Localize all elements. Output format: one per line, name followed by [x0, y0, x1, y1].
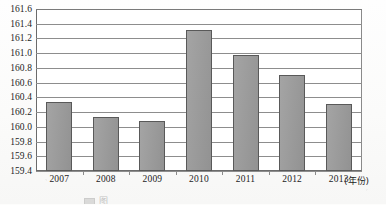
bars-group [36, 9, 362, 171]
x-axis-tick-label: 2012 [282, 174, 302, 184]
y-axis-tick-label: 161.2 [0, 33, 32, 43]
x-axis-tick-label: 2007 [49, 174, 69, 184]
bar[interactable] [46, 102, 72, 171]
y-axis-tick-label: 160.4 [0, 92, 32, 102]
figure-caption: 图 [84, 194, 108, 204]
x-axis-tick-label: 2009 [143, 174, 163, 184]
bar-slot [222, 9, 269, 171]
x-axis-unit-label: (年份) [344, 174, 369, 187]
x-axis-tick-label: 2010 [189, 174, 209, 184]
gridline [36, 171, 362, 172]
bar-slot [269, 9, 316, 171]
y-axis-tick-label: 160.0 [0, 122, 32, 132]
bar[interactable] [233, 55, 259, 171]
y-axis-tick-label: 159.8 [0, 137, 32, 147]
y-axis: 161.6161.4161.2161.0160.8160.6160.4160.2… [0, 0, 36, 180]
y-axis-tick-label: 159.6 [0, 151, 32, 161]
y-axis-tick-label: 160.8 [0, 63, 32, 73]
bar[interactable] [186, 30, 212, 171]
y-axis-tick-label: 161.6 [0, 4, 32, 14]
bar[interactable] [326, 104, 352, 171]
x-axis: 2007200820092010201120122013 [36, 174, 362, 190]
bar-chart: 161.6161.4161.2161.0160.8160.6160.4160.2… [0, 0, 386, 204]
bar-slot [176, 9, 223, 171]
y-axis-tick-label: 161.0 [0, 48, 32, 58]
figure-caption-text: 图 [99, 196, 108, 204]
x-axis-tick-label: 2011 [236, 174, 255, 184]
y-axis-tick-label: 159.4 [0, 166, 32, 176]
bar[interactable] [93, 117, 119, 171]
bar[interactable] [139, 121, 165, 171]
y-axis-tick-label: 161.4 [0, 19, 32, 29]
y-axis-tick-label: 160.6 [0, 78, 32, 88]
bar-slot [36, 9, 83, 171]
y-axis-tick-label: 160.2 [0, 107, 32, 117]
bar-slot [315, 9, 362, 171]
bar-slot [83, 9, 130, 171]
legend-swatch-icon [84, 198, 95, 205]
bar[interactable] [279, 75, 305, 171]
x-axis-tick-label: 2008 [96, 174, 116, 184]
bar-slot [129, 9, 176, 171]
